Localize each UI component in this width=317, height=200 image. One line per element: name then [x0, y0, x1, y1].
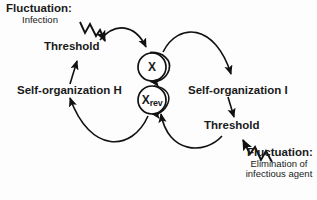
- node-xrev-subscript: rev: [150, 98, 163, 108]
- node-xrev-label: Xrev: [132, 93, 172, 107]
- edge-threshold-to-x: [100, 28, 146, 47]
- diagram-canvas: Fluctuation: Infection Threshold Self-or…: [0, 0, 317, 200]
- fluctuation-top-detail: Infection: [22, 15, 58, 25]
- edge-selforg-h-to-threshold: [70, 61, 77, 84]
- self-organization-h-label: Self-organization H: [17, 84, 122, 96]
- threshold-right-label: Threshold: [204, 119, 260, 131]
- self-organization-i-label: Self-organization I: [188, 84, 288, 96]
- threshold-left-label: Threshold: [44, 40, 100, 52]
- fluctuation-top-title: Fluctuation:: [6, 2, 72, 14]
- fluctuation-bottom-title: Fluctuation:: [247, 146, 313, 158]
- node-xrev-main: X: [142, 93, 150, 107]
- edge-x-to-selforg-i: [163, 32, 231, 74]
- edge-selforg-i-to-threshold: [228, 97, 234, 117]
- node-x-label: X: [138, 60, 166, 74]
- fluctuation-bottom-detail: Elimination of infectious agent: [245, 159, 313, 180]
